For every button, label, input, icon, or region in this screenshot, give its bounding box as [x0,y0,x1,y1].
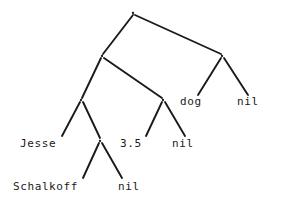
leaf-label-nil_b: nil [118,181,140,193]
tree-edge [135,15,221,54]
leaf-label-dog: dog [180,96,202,108]
tree-node-dot [132,12,134,14]
tree-node-dot [80,99,82,101]
tree-edge [83,102,100,138]
tree-node-dot [101,55,103,57]
edge-group [62,15,248,178]
tree-edge [198,58,221,95]
tree-node-dot [162,99,164,101]
tree-edge [102,143,122,178]
leaf-label-nil_m: nil [172,138,194,150]
tree-node-dot [99,140,101,142]
tree-edge [224,58,248,95]
tree-edge [103,15,133,54]
tree-edge [104,58,162,98]
tree-node-dot [221,55,223,57]
tree-edge [146,102,162,136]
tree-diagram: dognilJesse3.5nilSchalkoffnil [0,0,292,203]
tree-edge [62,102,80,136]
leaf-label-nil_r: nil [237,96,259,108]
leaf-label-three_five: 3.5 [120,138,142,150]
leaf-label-jesse: Jesse [20,138,56,150]
leaf-label-schalkoff: Schalkoff [13,181,78,193]
tree-edge [82,58,101,98]
tree-edge [83,143,99,178]
